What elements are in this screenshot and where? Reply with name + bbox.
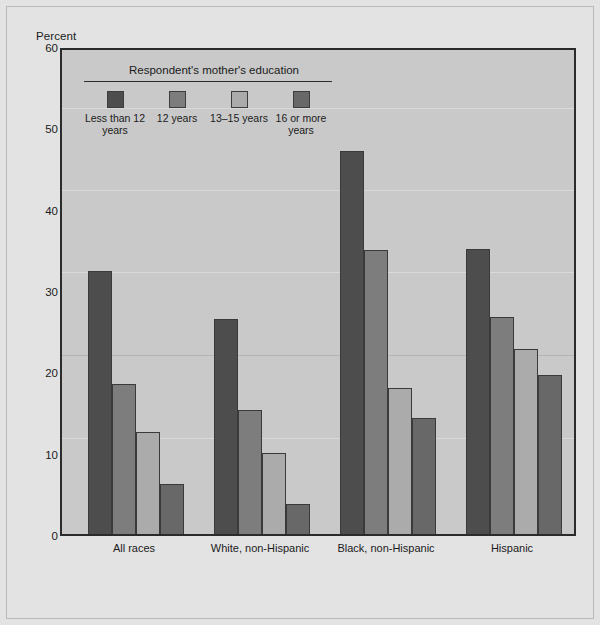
y-tick-30: 30: [32, 286, 58, 298]
x-label-1: White, non-Hispanic: [211, 542, 309, 554]
y-tick-40: 40: [32, 205, 58, 217]
bar-0-2: [136, 432, 160, 534]
bar-1-0: [214, 319, 238, 534]
bar-2-3: [412, 418, 436, 534]
bars-layer: [62, 50, 574, 534]
bar-1-2: [262, 453, 286, 534]
chart-page: Percent 0102030405060 Respondent's mothe…: [0, 0, 600, 625]
y-axis-title: Percent: [36, 30, 76, 42]
x-label-0: All races: [113, 542, 155, 554]
bar-1-1: [238, 410, 262, 534]
bar-0-3: [160, 484, 184, 534]
bar-3-3: [538, 375, 562, 534]
plot-area: Respondent's mother's education Less tha…: [60, 48, 576, 536]
y-tick-50: 50: [32, 123, 58, 135]
x-label-3: Hispanic: [491, 542, 533, 554]
y-tick-60: 60: [32, 42, 58, 54]
plot-inner: Respondent's mother's education Less tha…: [62, 50, 574, 534]
y-tick-10: 10: [32, 449, 58, 461]
bar-0-1: [112, 384, 136, 534]
x-axis-tick-labels: All racesWhite, non-HispanicBlack, non-H…: [60, 540, 576, 560]
x-label-2: Black, non-Hispanic: [337, 542, 434, 554]
bar-1-3: [286, 504, 310, 534]
bar-2-0: [340, 151, 364, 534]
bar-2-1: [364, 250, 388, 534]
bar-3-2: [514, 349, 538, 534]
bar-3-1: [490, 317, 514, 534]
y-tick-0: 0: [32, 530, 58, 542]
bar-2-2: [388, 388, 412, 534]
bar-0-0: [88, 271, 112, 534]
y-tick-20: 20: [32, 367, 58, 379]
y-axis-tick-labels: 0102030405060: [26, 48, 58, 536]
bar-3-0: [466, 249, 490, 534]
